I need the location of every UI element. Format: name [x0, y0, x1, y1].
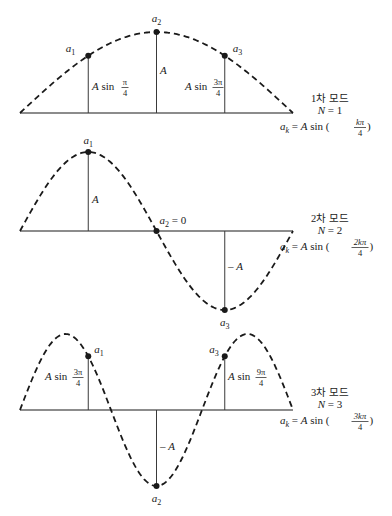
- mass-label-a2-text: a2: [152, 12, 162, 27]
- amplitude-label-a1-prefix: A sin: [91, 80, 115, 92]
- amplitude-label-a2: – A: [159, 440, 175, 452]
- mass-label-a3-text: a3: [233, 42, 243, 57]
- mass-label-a3-text: a3: [220, 316, 230, 331]
- mass-point-a1: [85, 53, 91, 59]
- mass-point-a3: [222, 307, 228, 313]
- amplitude-label-a3-prefix: A sin: [184, 80, 208, 92]
- amplitude-label-a3-numerator: 3π: [214, 77, 223, 87]
- standing-wave-modes-diagram: 1차 모드N = 1ak = A sin (kπ4)a1A sin π4a2Aa…: [0, 0, 392, 516]
- mass-label-a2: a2: [152, 492, 162, 507]
- formula-text: ak = A sin (: [280, 414, 330, 429]
- formula-numerator: 2kπ: [354, 237, 367, 247]
- mode-number-label: N = 2: [317, 224, 343, 236]
- formula-close-paren: ): [367, 120, 371, 133]
- formula-close-paren: ): [370, 240, 374, 253]
- mode-title: 3차 모드: [311, 387, 349, 398]
- mass-label-a3-text: a3: [209, 343, 219, 358]
- formula-denominator: 4: [358, 128, 363, 138]
- formula-numerator: kπ: [356, 117, 365, 127]
- mode-formula: ak = A sin (2kπ4): [280, 237, 374, 258]
- amplitude-label-a2-prefix: A: [159, 64, 167, 76]
- mass-label-a3: a3: [220, 316, 230, 331]
- mass-label-a2: a2: [152, 12, 162, 27]
- mode-title: 1차 모드: [311, 93, 349, 104]
- mass-label-a1-text: a1: [94, 343, 104, 358]
- mass-label-a3: a3: [209, 343, 219, 358]
- mass-point-a2: [154, 228, 160, 234]
- amplitude-label-a3: A sin 3π4: [184, 77, 224, 98]
- mass-label-a1: a1: [94, 343, 104, 358]
- amplitude-label-a2: A: [159, 64, 167, 76]
- amplitude-label-a3: A sin 9π4: [227, 367, 267, 388]
- mass-point-a1: [85, 353, 91, 359]
- mode-number-label: N = 3: [317, 398, 343, 410]
- mass-point-a3: [222, 353, 228, 359]
- amplitude-label-a3-numerator: 9π: [257, 367, 266, 377]
- formula-denominator: 4: [358, 422, 363, 432]
- mass-label-a1: a1: [84, 134, 94, 149]
- amplitude-label-a1: A: [91, 193, 99, 205]
- amplitude-label-a3-prefix: A sin: [227, 370, 251, 382]
- amplitude-label-a1-denominator: 4: [76, 378, 81, 388]
- amplitude-label-a1-denominator: 4: [123, 88, 128, 98]
- mode-formula: ak = A sin (3kπ4): [280, 411, 374, 432]
- mass-point-a1: [85, 149, 91, 155]
- mode-number-label: N = 1: [317, 104, 343, 116]
- mode-2-group: 2차 모드N = 2ak = A sin (2kπ4): [20, 149, 374, 313]
- mass-label-a3: a3: [233, 42, 243, 57]
- amplitude-label-a2-prefix: – A: [159, 440, 175, 452]
- amplitude-label-a1-prefix: A: [91, 193, 99, 205]
- formula-denominator: 4: [358, 248, 363, 258]
- mass-point-a3: [222, 53, 228, 59]
- amplitude-label-a3-denominator: 4: [259, 378, 264, 388]
- formula-text: ak = A sin (: [280, 120, 330, 135]
- mode-formula: ak = A sin (kπ4): [280, 117, 371, 138]
- mass-label-a2: a2 = 0: [160, 214, 187, 229]
- mass-label-a2-text: a2: [152, 492, 162, 507]
- mode-title: 2차 모드: [311, 213, 349, 224]
- mass-label-a1: a1: [66, 42, 76, 57]
- mass-point-a2: [154, 29, 160, 35]
- mass-label-a1-text: a1: [66, 42, 76, 57]
- amplitude-label-a1: A sin 3π4: [44, 367, 84, 388]
- mass-label-a1-text: a1: [84, 134, 94, 149]
- amplitude-label-a1: A sin π4: [91, 77, 129, 98]
- amplitude-label-a1-prefix: A sin: [44, 370, 68, 382]
- formula-numerator: 3kπ: [353, 411, 367, 421]
- formula-close-paren: ): [370, 414, 374, 427]
- mode-3-group: 3차 모드N = 3ak = A sin (3kπ4): [20, 334, 374, 489]
- amplitude-label-a1-numerator: π: [123, 77, 128, 87]
- mass-point-a2: [154, 483, 160, 489]
- amplitude-label-a3-denominator: 4: [216, 88, 221, 98]
- amplitude-label-a1-numerator: 3π: [74, 367, 83, 377]
- mass-label-a2-text: a2 = 0: [160, 214, 187, 229]
- amplitude-label-a3-prefix: – A: [227, 260, 243, 272]
- amplitude-label-a3: – A: [227, 260, 243, 272]
